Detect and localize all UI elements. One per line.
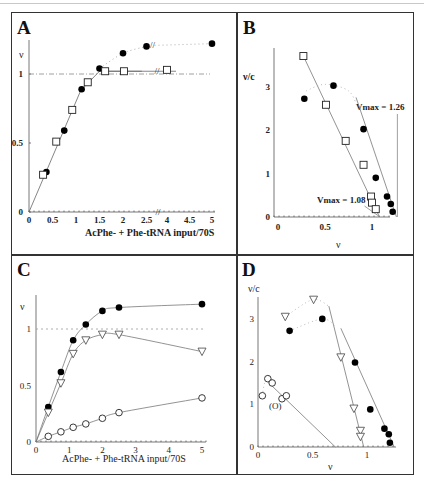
panel-label-a: A xyxy=(17,17,31,38)
open-triangle-marker xyxy=(337,354,345,362)
filled-circle-marker xyxy=(70,337,77,344)
filled-circle-marker xyxy=(319,316,326,323)
panel-c-x-tick: 1 xyxy=(67,445,72,455)
open-circle-marker xyxy=(45,433,52,440)
panel-b-vmax-108: Vmax = 1.08 xyxy=(317,195,366,205)
panel-c-y-tick: 1 xyxy=(27,324,32,334)
filled-circle-marker xyxy=(360,126,367,133)
panel-a-y-tick: 0.5 xyxy=(12,138,24,148)
panel-d-y-tick: 0 xyxy=(250,442,255,452)
panel-a-ylabel: ν xyxy=(19,49,24,60)
open-circle-marker xyxy=(116,409,123,416)
open-square-marker xyxy=(164,66,171,73)
panel-a-x-tick: 5 xyxy=(210,215,215,225)
panel-c-ylabel: ν xyxy=(20,301,25,312)
open-square-marker xyxy=(300,53,307,60)
filled-circle-marker xyxy=(99,308,106,315)
panel-c-x-tick: 4 xyxy=(167,445,172,455)
filled-circle-marker xyxy=(209,40,216,47)
filled-circle-marker xyxy=(384,193,391,200)
panel-d-x-tick: 0.5 xyxy=(307,450,319,460)
open-circle-marker xyxy=(58,429,65,436)
open-square-marker xyxy=(372,206,379,213)
panel-d-y-tick: 3 xyxy=(250,314,255,324)
filled-circle-marker xyxy=(352,359,359,366)
panel-d-dotted-tri xyxy=(285,299,329,316)
filled-circle-marker xyxy=(301,95,308,102)
open-triangle-marker xyxy=(281,313,289,321)
filled-circle-marker xyxy=(386,431,393,438)
open-square-marker xyxy=(342,137,349,144)
open-triangle-marker xyxy=(198,348,206,356)
open-square-marker xyxy=(84,79,91,86)
panel-c-y-tick: 0.5 xyxy=(20,381,32,391)
panel-b-y-tick: 2 xyxy=(266,125,271,135)
panel-b-vmax-126: Vmax = 1.26 xyxy=(356,102,405,112)
panel-d-y-tick: 2 xyxy=(250,357,255,367)
panel-label-b: B xyxy=(243,17,256,38)
filled-circle-marker xyxy=(387,439,394,446)
open-triangle-marker xyxy=(69,350,77,358)
filled-circle-marker xyxy=(61,127,68,134)
panel-a-y-tick: 1 xyxy=(19,69,24,79)
panel-a-x-tick: 1.5 xyxy=(94,215,106,225)
filled-circle-marker xyxy=(120,50,127,57)
panel-a-x-tick: 2 xyxy=(121,215,126,225)
open-circle-marker xyxy=(269,380,276,387)
panel-b-x-tick: 0 xyxy=(276,222,281,232)
filled-circle-marker xyxy=(143,43,150,50)
panel-d-xlabel: ν xyxy=(328,461,333,472)
axis-break: // xyxy=(155,207,161,217)
panel-c-x-tick: 0 xyxy=(34,445,39,455)
panel-a-x-tick: 0.5 xyxy=(47,215,59,225)
open-square-marker xyxy=(69,106,76,113)
panel-a-x-tick: 2.5 xyxy=(141,215,153,225)
panel-d-ylabel: ν/c xyxy=(248,283,260,294)
axis-break-dot: // xyxy=(150,40,156,50)
panel-b-ylabel: ν/c xyxy=(242,71,255,82)
panel-c-y-tick: 0 xyxy=(27,437,32,447)
filled-circle-marker xyxy=(78,86,85,93)
panel-d-x-tick: 1 xyxy=(365,450,370,460)
panel-b-y-tick: 1 xyxy=(266,169,271,179)
figure-canvas: A B C D ν AcPhe- + Phe-tRNA input/70S ν/… xyxy=(0,0,424,489)
filled-circle-marker xyxy=(389,208,396,215)
panel-d-x-tick: 0 xyxy=(256,450,261,460)
panel-a-y-tick: 0 xyxy=(19,207,24,217)
panel-a-fit-solid xyxy=(29,71,142,212)
panel-b-x-tick: 1 xyxy=(370,222,375,232)
panel-a-x-tick: 4.5 xyxy=(184,215,196,225)
panel-a-fit-dotted-2 xyxy=(155,44,213,46)
panel-b-x-tick: 0.5 xyxy=(319,222,331,232)
panel-d-dotted-circ xyxy=(290,319,337,331)
open-triangle-marker xyxy=(82,337,90,345)
axis-break-line: // xyxy=(154,66,160,76)
open-triangle-marker xyxy=(57,380,65,388)
panel-d-fit xyxy=(269,383,335,447)
panel-d-paren-o: (O) xyxy=(269,401,282,411)
panel-d-fit xyxy=(329,306,364,447)
open-square-marker xyxy=(120,68,127,75)
open-square-marker xyxy=(102,68,109,75)
panel-d-y-tick: 1 xyxy=(250,399,255,409)
panel-label-c: C xyxy=(17,259,31,280)
panel-a-x-tick: 4 xyxy=(165,215,170,225)
open-triangle-marker xyxy=(356,433,364,441)
filled-circle-marker xyxy=(367,406,374,413)
open-square-marker xyxy=(369,199,376,206)
open-square-marker xyxy=(53,138,60,145)
open-triangle-marker xyxy=(310,296,318,304)
panel-b-y-tick: 0 xyxy=(266,212,271,222)
open-triangle-marker xyxy=(350,405,358,413)
open-square-marker xyxy=(322,101,329,108)
filled-circle-marker xyxy=(372,175,379,182)
open-circle-marker xyxy=(70,424,77,431)
panel-a-fit-dotted xyxy=(100,46,147,68)
panel-c-x-tick: 3 xyxy=(133,445,138,455)
filled-circle-marker xyxy=(286,328,293,335)
plot-layer: 00.511.522.544.5500.51//////00.510123012… xyxy=(12,40,398,460)
filled-circle-marker xyxy=(330,82,337,89)
filled-circle-marker xyxy=(381,425,388,432)
open-circle-marker xyxy=(283,392,290,399)
open-circle-marker xyxy=(259,392,266,399)
